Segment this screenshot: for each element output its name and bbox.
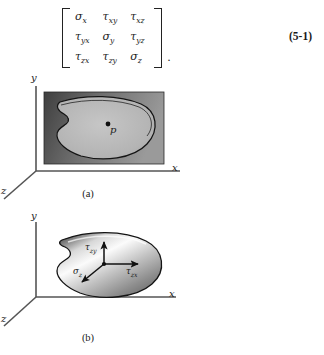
matrix-subscript: yx (81, 36, 89, 45)
matrix-bracket-left (62, 8, 70, 68)
figure-a-y-label: y (31, 72, 37, 83)
z-axis (4, 171, 36, 199)
figure-a-x-label: x (172, 162, 178, 173)
tau-zx-label: τzx (126, 266, 137, 278)
sigma-z-subscript: z (79, 271, 82, 278)
matrix-row: τzx τzy σz (71, 48, 153, 68)
tau-zy-subscript: zy (90, 247, 97, 254)
z-axis (4, 297, 36, 326)
matrix-cell: σx (71, 8, 99, 28)
figure-a: y x z p (0, 72, 240, 202)
matrix-subscript: yz (136, 36, 144, 45)
matrix-cell: τxz (126, 8, 153, 28)
matrix-subscript: zx (81, 56, 89, 65)
matrix-subscript: zy (109, 56, 117, 65)
matrix-row: σx τxy τxz (71, 8, 153, 28)
matrix-symbol: σ (130, 50, 138, 63)
figure-a-graphic (0, 72, 240, 202)
figure-b: y x z τzy τzx σz (0, 214, 240, 355)
figure-b-graphic (0, 214, 240, 355)
matrix-symbol: σ (103, 30, 111, 43)
figure-a-z-label: z (1, 185, 6, 196)
matrix-cell: τyz (126, 28, 153, 48)
matrix-subscript: x (83, 16, 87, 25)
cross-section-blob (57, 233, 162, 298)
matrix-cell: τxy (99, 8, 127, 28)
figure-b-caption: (b) (68, 332, 108, 343)
matrix-subscript: y (110, 36, 114, 45)
tau-zx-subscript: zx (131, 271, 138, 278)
cross-section-blob (57, 97, 155, 159)
point-p-label: p (110, 124, 116, 135)
matrix-symbol: σ (75, 10, 83, 23)
textbook-figure-page: σx τxy τxz τyx σy τyz τzx τzy σz . (5-1) (0, 0, 324, 355)
figure-a-caption: (a) (68, 188, 108, 199)
equation-block: σx τxy τxz τyx σy τyz τzx τzy σz . (5-1) (0, 8, 324, 70)
figure-b-x-label: x (169, 288, 175, 299)
matrix-row: τyx σy τyz (71, 28, 153, 48)
matrix-cell: τyx (71, 28, 99, 48)
matrix-subscript: z (138, 56, 142, 65)
equation-number: (5-1) (289, 30, 312, 42)
matrix-table: σx τxy τxz τyx σy τyz τzx τzy σz (71, 8, 153, 68)
figure-b-y-label: y (31, 210, 37, 221)
matrix-subscript: xy (109, 16, 117, 25)
figure-b-z-label: z (1, 313, 6, 324)
matrix-cell: τzx (71, 48, 99, 68)
sigma-z-label: σz (73, 266, 82, 278)
tau-zy-label: τzy (85, 242, 96, 254)
matrix-bracket-right (154, 8, 162, 68)
matrix-cell: σz (126, 48, 153, 68)
stress-tensor-matrix: σx τxy τxz τyx σy τyz τzx τzy σz . (62, 8, 170, 68)
matrix-subscript: xz (136, 16, 144, 25)
equation-punctuation: . (167, 50, 170, 68)
matrix-cell: σy (99, 28, 127, 48)
matrix-cell: τzy (99, 48, 127, 68)
